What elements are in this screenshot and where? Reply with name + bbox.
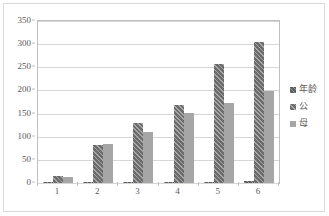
x-tick-mark [278,182,279,186]
bar-female-5[interactable] [224,103,234,183]
legend-item-male[interactable]: 公 [290,99,329,114]
plot-area [37,20,280,184]
bar-age-4[interactable] [164,182,174,183]
legend-label: 母 [299,119,308,128]
bar-age-5[interactable] [204,182,214,183]
bar-age-2[interactable] [83,182,93,183]
bar-male-2[interactable] [93,145,103,183]
y-tick-mark [32,182,35,183]
x-tick-label: 6 [256,187,261,196]
chart-legend: 年龄公母 [290,82,329,133]
bar-male-4[interactable] [174,105,184,183]
y-tick-label: 50 [22,154,31,163]
y-tick-mark [32,20,35,21]
bar-female-1[interactable] [63,177,73,183]
bar-female-6[interactable] [264,91,274,183]
y-tick-mark [32,66,35,67]
y-tick-label: 150 [18,108,32,117]
bar-female-3[interactable] [143,132,153,183]
x-tick-mark [238,182,239,186]
bar-group [239,21,279,183]
bar-male-6[interactable] [254,42,264,183]
bar-female-4[interactable] [184,113,194,183]
y-axis: 050100150200250300350 [4,20,35,184]
bar-group [78,21,118,183]
y-tick-label: 250 [18,62,32,71]
y-tick-mark [32,89,35,90]
bar-age-6[interactable] [244,181,254,183]
x-tick-mark [37,182,38,186]
y-tick-mark [32,158,35,159]
bar-group [159,21,199,183]
gridline [38,183,279,184]
x-tick-mark [117,182,118,186]
legend-item-female[interactable]: 母 [290,116,329,131]
legend-item-age[interactable]: 年龄 [290,82,329,97]
x-tick-mark [198,182,199,186]
y-tick-label: 300 [18,39,32,48]
bar-age-3[interactable] [123,182,133,183]
x-tick-label: 5 [216,187,221,196]
x-tick-mark [158,182,159,186]
x-tick-mark [77,182,78,186]
legend-swatch-icon [290,121,296,127]
bar-age-1[interactable] [43,182,53,183]
x-tick-label: 4 [175,187,180,196]
legend-swatch-icon [290,87,296,93]
y-tick-mark [32,112,35,113]
y-tick-label: 100 [18,131,32,140]
y-tick-label: 350 [18,16,32,25]
y-tick-label: 200 [18,85,32,94]
bar-male-1[interactable] [53,176,63,183]
bar-female-2[interactable] [103,144,113,183]
legend-label: 公 [299,102,308,111]
bar-male-5[interactable] [214,64,224,183]
x-axis: 123456 [37,186,280,202]
bar-male-3[interactable] [133,123,143,183]
y-tick-mark [32,43,35,44]
bar-group [38,21,78,183]
legend-label: 年龄 [299,85,317,94]
bar-group [118,21,158,183]
y-tick-mark [32,135,35,136]
y-tick-label: 0 [27,178,32,187]
x-tick-label: 1 [55,187,60,196]
x-tick-label: 2 [95,187,100,196]
chart-frame: 050100150200250300350 123456 年龄公母 [3,3,325,212]
legend-swatch-icon [290,104,296,110]
bar-group [199,21,239,183]
x-tick-label: 3 [135,187,140,196]
